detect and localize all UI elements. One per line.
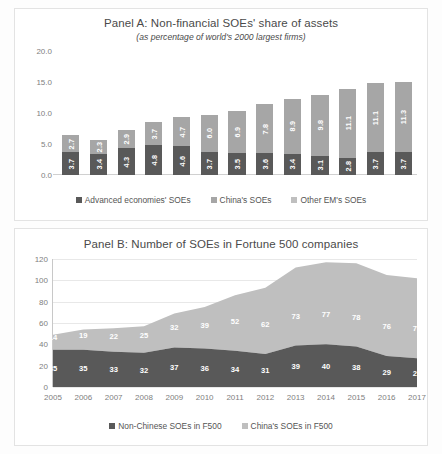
panel-a-bar-10-upper: 11.1 (339, 89, 356, 158)
panel-a-title: Panel A: Non-financial SOEs' share of as… (15, 17, 427, 29)
panel-a-bar-2[interactable]: 2.94.3 (118, 130, 135, 175)
panel-a-bar-1-upper-label: 2.3 (94, 141, 103, 152)
legend-label-0: Non-Chinese SOEs in F500 (118, 421, 221, 431)
panel-a-bar-2-lower: 4.3 (118, 148, 135, 175)
panel-a-bar-9-upper-label: 9.8 (316, 120, 325, 131)
panel-a-bar-3-lower-label: 4.8 (149, 155, 158, 166)
panel-a-bar-0-lower-label: 3.7 (66, 158, 75, 169)
panel-a: Panel A: Non-financial SOEs' share of as… (14, 8, 428, 221)
panel-b-ytick-1: 20 (39, 361, 48, 370)
panel-b-xtick-8: 2013 (287, 393, 305, 402)
legend-label-1: China's SOEs in F500 (251, 421, 333, 431)
legend-item-1: China's SOEs in F500 (242, 421, 333, 431)
panel-a-bar-7-lower: 3.6 (256, 153, 273, 175)
panel-a-bar-6[interactable]: 6.93.5 (228, 111, 245, 175)
panel-a-bar-10-lower-label: 2.8 (343, 161, 352, 172)
panel-b-label-lower-2: 33 (109, 365, 117, 374)
legend-swatch-1 (242, 423, 248, 429)
panel-b-xtick-1: 2006 (74, 393, 92, 402)
panel-b-area-china (53, 262, 417, 358)
panel-b-xtick-9: 2014 (317, 393, 335, 402)
panel-a-bar-8-lower-label: 3.4 (288, 159, 297, 170)
panel-b-label-upper-3: 25 (140, 331, 148, 340)
panel-a-bar-2-upper-label: 2.9 (122, 134, 131, 145)
panel-a-bar-9[interactable]: 9.83.1 (311, 95, 328, 175)
panel-a-bar-4[interactable]: 4.74.6 (173, 117, 190, 175)
panel-a-bar-9-lower-label: 3.1 (316, 160, 325, 171)
panel-a-bar-3-upper-label: 3.7 (149, 128, 158, 139)
legend-swatch-1 (211, 197, 217, 203)
legend-swatch-0 (76, 197, 82, 203)
panel-a-bar-9-lower: 3.1 (311, 156, 328, 175)
panel-a-bar-6-lower-label: 3.5 (232, 159, 241, 170)
panel-a-bar-10-lower: 2.8 (339, 158, 356, 175)
panel-b-label-lower-8: 39 (291, 362, 299, 371)
panel-b-label-lower-5: 36 (200, 363, 208, 372)
panel-a-bar-1-lower-label: 3.4 (94, 159, 103, 170)
legend-label-1: China's SOEs (220, 195, 272, 205)
panel-b-label-lower-10: 38 (352, 362, 360, 371)
panel-a-bar-0-lower: 3.7 (62, 152, 79, 175)
panel-b-label-upper-8: 73 (291, 311, 299, 320)
panel-a-bar-7[interactable]: 7.83.6 (256, 104, 273, 175)
panel-b-label-upper-2: 22 (109, 331, 117, 340)
panel-a-bar-7-upper: 7.8 (256, 104, 273, 152)
panel-a-bar-1-upper: 2.3 (90, 140, 107, 154)
panel-a-bar-1[interactable]: 2.33.4 (90, 140, 107, 175)
panel-b-ytick-0: 0 (44, 383, 48, 392)
legend-item-0: Advanced economies' SOEs (76, 195, 191, 205)
panel-a-bar-3[interactable]: 3.74.8 (145, 122, 162, 175)
panel-b-xtick-7: 2012 (256, 393, 274, 402)
panel-a-bar-8[interactable]: 8.93.4 (284, 99, 301, 175)
panel-b-label-lower-7: 31 (261, 366, 269, 375)
panel-a-bar-4-lower: 4.6 (173, 146, 190, 175)
legend-label-2: Other EM's SOEs (300, 195, 366, 205)
legend-swatch-2 (291, 197, 297, 203)
panel-b-label-lower-11: 29 (382, 367, 390, 376)
panel-a-bar-9-upper: 9.8 (311, 95, 328, 156)
panel-a-bar-4-upper: 4.7 (173, 117, 190, 146)
panel-a-bar-6-lower: 3.5 (228, 153, 245, 175)
panel-a-bar-7-lower-label: 3.6 (260, 158, 269, 169)
figure-container: Panel A: Non-financial SOEs' share of as… (0, 0, 442, 454)
panel-a-bar-12-upper-label: 11.3 (399, 110, 408, 125)
panel-a-bar-4-upper-label: 4.7 (177, 127, 186, 138)
panel-b-label-lower-4: 37 (170, 363, 178, 372)
legend-item-1: China's SOEs (211, 195, 272, 205)
panel-a-ytick-3: 15.0 (36, 78, 52, 87)
panel-b-label-upper-7: 62 (261, 320, 269, 329)
panel-b-ytick-2: 40 (39, 340, 48, 349)
panel-a-ytick-2: 10.0 (36, 109, 52, 118)
panel-a-bar-12[interactable]: 11.33.7 (395, 82, 412, 175)
panel-a-bar-3-lower: 4.8 (145, 145, 162, 175)
panel-a-bar-11-upper-label: 11.1 (371, 110, 380, 125)
panel-b-xtick-0: 2005 (44, 393, 62, 402)
panel-a-bar-10[interactable]: 11.12.8 (339, 89, 356, 175)
panel-a-bar-5[interactable]: 6.03.7 (201, 115, 218, 175)
panel-a-bar-11[interactable]: 11.13.7 (367, 83, 384, 175)
legend-item-2: Other EM's SOEs (291, 195, 366, 205)
panel-a-bar-0[interactable]: 2.73.7 (62, 135, 79, 175)
panel-b-label-lower-9: 40 (322, 361, 330, 370)
panel-b-label-upper-11: 76 (382, 322, 390, 331)
panel-b-label-lower-3: 32 (140, 365, 148, 374)
panel-a-bar-5-lower: 3.7 (201, 152, 218, 175)
panel-a-bar-8-upper: 8.9 (284, 99, 301, 154)
panel-a-bar-11-lower-label: 3.7 (371, 158, 380, 169)
panel-a-subtitle: (as percentage of world's 2000 largest f… (15, 32, 427, 42)
panel-b-label-upper-5: 39 (200, 320, 208, 329)
panel-b-xtick-11: 2016 (378, 393, 396, 402)
panel-b-title: Panel B: Number of SOEs in Fortune 500 c… (15, 238, 427, 250)
panel-a-bar-10-upper-label: 11.1 (343, 116, 352, 131)
panel-b-label-upper-1: 19 (79, 330, 87, 339)
panel-a-bar-4-lower-label: 4.6 (177, 155, 186, 166)
panel-a-ytick-0: 0.0 (41, 171, 52, 180)
panel-b: Panel B: Number of SOEs in Fortune 500 c… (14, 228, 428, 446)
panel-a-bar-0-upper: 2.7 (62, 135, 79, 152)
panel-a-bar-6-upper: 6.9 (228, 111, 245, 154)
panel-a-bar-6-upper-label: 6.9 (232, 127, 241, 138)
panel-b-label-lower-0: 35 (49, 364, 57, 373)
panel-a-bar-3-upper: 3.7 (145, 122, 162, 145)
panel-b-label-lower-12: 27 (413, 368, 421, 377)
legend-label-0: Advanced economies' SOEs (85, 195, 191, 205)
